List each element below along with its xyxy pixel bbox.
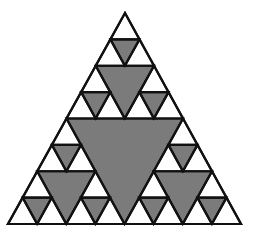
- sierpinski-diagram: [0, 0, 253, 236]
- sierpinski-triangle-graphic: [0, 0, 253, 236]
